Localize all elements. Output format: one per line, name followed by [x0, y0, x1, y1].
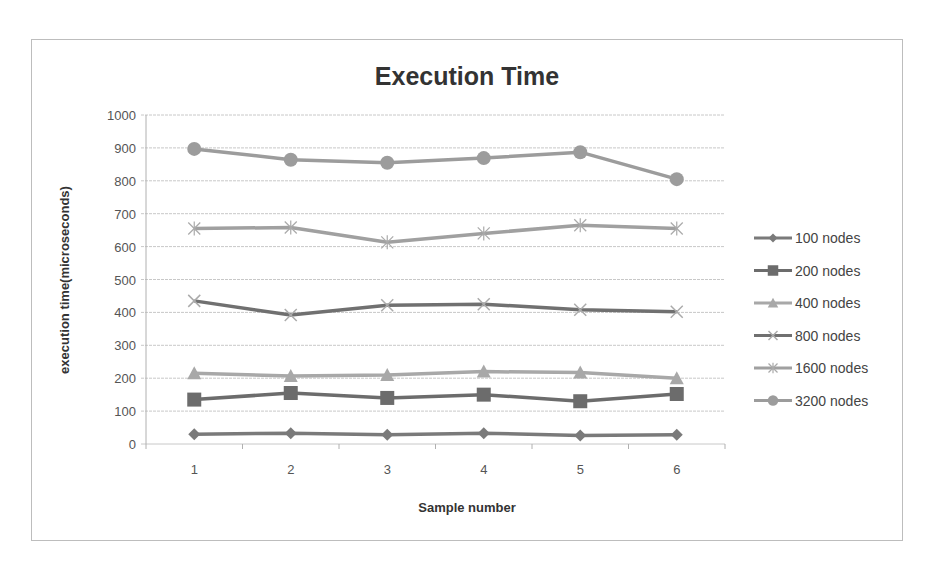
legend-label: 200 nodes [795, 263, 860, 279]
legend-item: 100 nodes [754, 230, 860, 246]
chart-title: Execution Time [375, 62, 559, 90]
y-tick-label: 500 [114, 273, 136, 288]
legend-item: 800 nodes [754, 328, 860, 344]
y-tick-label: 200 [114, 371, 136, 386]
line-chart: Execution Time 0100200300400500600700800… [0, 0, 934, 574]
legend-label: 3200 nodes [795, 393, 868, 409]
x-tick-label: 1 [191, 462, 198, 477]
series-400-nodes [187, 365, 684, 385]
y-tick-label: 0 [129, 437, 136, 452]
legend-item: 1600 nodes [754, 360, 868, 376]
y-tick-label: 1000 [107, 108, 136, 123]
series-100-nodes [188, 427, 683, 441]
y-tick-label: 400 [114, 305, 136, 320]
series-800-nodes [188, 295, 683, 321]
y-tick-label: 300 [114, 338, 136, 353]
legend-label: 800 nodes [795, 328, 860, 344]
legend-label: 400 nodes [795, 295, 860, 311]
series-1600-nodes [188, 218, 683, 249]
legend-item: 200 nodes [754, 263, 860, 279]
x-axis-title: Sample number [418, 500, 516, 515]
x-axis-ticks: 123456 [191, 462, 681, 477]
y-tick-label: 800 [114, 174, 136, 189]
y-axis-ticks: 01002003004005006007008009001000 [107, 108, 136, 452]
y-tick-label: 100 [114, 404, 136, 419]
legend-item: 3200 nodes [754, 393, 868, 409]
legend: 100 nodes200 nodes400 nodes800 nodes1600… [754, 230, 868, 409]
y-tick-label: 700 [114, 207, 136, 222]
x-tick-label: 3 [384, 462, 391, 477]
series-lines [187, 142, 684, 442]
legend-item: 400 nodes [754, 295, 860, 311]
legend-label: 1600 nodes [795, 360, 868, 376]
legend-label: 100 nodes [795, 230, 860, 246]
y-tick-label: 600 [114, 240, 136, 255]
x-tick-label: 6 [673, 462, 680, 477]
series-3200-nodes [187, 142, 684, 186]
y-axis-title: execution time(microseconds) [57, 186, 72, 374]
series-200-nodes [187, 386, 684, 408]
x-tick-label: 2 [287, 462, 294, 477]
x-tick-label: 5 [577, 462, 584, 477]
y-tick-label: 900 [114, 141, 136, 156]
x-tick-label: 4 [480, 462, 487, 477]
